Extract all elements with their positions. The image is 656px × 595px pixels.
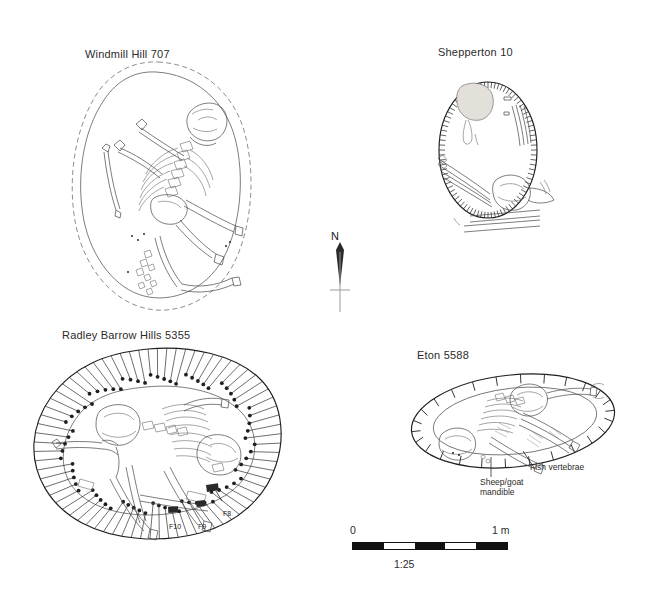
find-marker-f8 xyxy=(206,483,219,492)
hachure-tick xyxy=(506,206,509,211)
hachure-head xyxy=(88,392,92,396)
hachure-head xyxy=(104,388,108,392)
hachure-tick xyxy=(514,97,518,101)
hachure-tick xyxy=(530,140,536,141)
hachure-head xyxy=(225,386,229,390)
hachure-head xyxy=(244,456,248,460)
hachure-tick xyxy=(198,354,214,381)
hachure-tick xyxy=(237,389,269,406)
hachure-head xyxy=(136,379,140,383)
hachure-tick xyxy=(497,84,499,90)
hachure-tick xyxy=(38,424,73,431)
hachure-tick xyxy=(482,459,483,468)
hachure-tick xyxy=(170,348,176,381)
hachure-head xyxy=(76,410,80,414)
hachure-tick xyxy=(176,349,186,384)
hachure-head xyxy=(190,376,194,380)
bone-group-limb-bones xyxy=(438,155,492,207)
grave-cut-inner xyxy=(81,72,241,298)
grave-cut-outline xyxy=(407,365,619,478)
hachure-tick xyxy=(517,100,522,104)
hachure-tick xyxy=(421,409,428,415)
hachure-tick xyxy=(571,444,575,452)
hachure-tick xyxy=(77,500,100,521)
hachure-tick xyxy=(525,116,531,118)
hachure-head xyxy=(232,481,236,485)
hachure-tick xyxy=(452,193,457,196)
hachure-head xyxy=(99,498,103,502)
hachure-tick xyxy=(604,418,612,421)
hachure-head xyxy=(95,493,99,497)
hachure-tick xyxy=(249,415,279,423)
hachure-head xyxy=(211,500,215,504)
plan-title-shepperton-10: Shepperton 10 xyxy=(438,46,513,58)
hachure-tick xyxy=(530,164,536,165)
hachure-tick xyxy=(450,108,455,111)
bone-group-arm-upper xyxy=(184,398,229,411)
hachure-tick xyxy=(474,209,476,215)
plan-title-windmill-hill-707: Windmill Hill 707 xyxy=(85,48,170,60)
hachure-tick xyxy=(50,484,76,495)
hachure-tick xyxy=(448,112,453,115)
hachure-tick xyxy=(41,415,66,422)
hachure-tick xyxy=(93,362,113,389)
hachure-tick xyxy=(544,374,545,383)
hachure-tick xyxy=(208,360,231,388)
hachure-tick xyxy=(35,458,61,460)
hachure-tick xyxy=(526,178,532,180)
hachure-tick xyxy=(457,199,461,203)
find-marks-right xyxy=(540,180,550,194)
hachure-head xyxy=(126,503,130,507)
hachure-tick xyxy=(203,357,222,384)
bone-group-ribs xyxy=(162,405,212,463)
find-fish-vertebrae xyxy=(481,455,490,463)
hachure-tick xyxy=(506,89,509,94)
hachure-tick xyxy=(77,372,98,392)
hachure-tick xyxy=(491,212,492,218)
hachure-tick xyxy=(444,120,450,122)
hachure-tick xyxy=(464,204,468,209)
hachure-tick xyxy=(425,444,430,451)
hachure-tick xyxy=(473,382,475,391)
bone-group-bottom-bones xyxy=(464,210,540,232)
hachure-head xyxy=(59,456,63,460)
annotation-fish-vertebrae: Fish vertebrae xyxy=(530,463,584,473)
hachure-head xyxy=(249,450,253,454)
hachure-head xyxy=(77,489,81,493)
hachure-tick xyxy=(205,503,224,525)
hachure-tick xyxy=(241,464,274,470)
hachure-tick xyxy=(255,443,281,444)
hachure-head xyxy=(119,387,123,391)
hachure-tick xyxy=(245,434,281,438)
hachure-head xyxy=(96,389,100,393)
hachure-tick xyxy=(500,209,502,215)
grave-cut-inner xyxy=(430,380,600,463)
hachure-tick xyxy=(583,383,586,391)
hachure-tick xyxy=(494,211,495,217)
hachure-tick xyxy=(164,348,167,379)
scale-segment-3 xyxy=(445,543,476,549)
hachure-tick xyxy=(551,451,553,460)
hachure-tick xyxy=(248,424,281,431)
north-arrow: N xyxy=(318,232,362,312)
hachure-tick xyxy=(523,186,528,189)
hachure-head xyxy=(71,469,75,473)
find-label-f10: F10 xyxy=(169,523,181,530)
hachure-tick xyxy=(85,367,106,390)
hachure-tick xyxy=(517,196,522,200)
hachure-tick xyxy=(94,508,110,528)
hachure-head xyxy=(196,379,200,383)
hachure-tick xyxy=(69,377,89,393)
hachure-tick xyxy=(451,389,455,397)
hachure-tick xyxy=(62,384,92,404)
bone-group-skull xyxy=(493,175,554,210)
hachure-head xyxy=(220,381,224,385)
plan-title-radley-barrow-hills-5355: Radley Barrow Hills 5355 xyxy=(62,329,190,341)
hachure-tick xyxy=(452,104,457,107)
plan-drawing-windmill-hill-707 xyxy=(40,40,290,310)
scale-bar-group: 0 1 m 1:25 xyxy=(340,524,530,584)
scale-segment-1 xyxy=(384,543,415,549)
plan-shepperton-10: Shepperton 10 xyxy=(400,40,580,240)
hachure-head xyxy=(71,462,75,466)
north-arrow-label: N xyxy=(331,230,339,242)
